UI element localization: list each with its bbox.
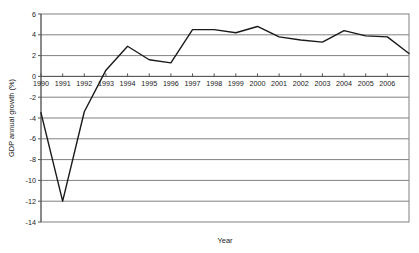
gdp-growth-line-chart: 6420-2-4-6-8-10-12-14 199019911992199319… [0, 0, 419, 253]
x-axis-tick-label: 2001 [271, 79, 287, 88]
x-axis-tick-label: 1991 [55, 79, 71, 88]
y-axis-title: GDP annual growth (%) [7, 79, 16, 157]
x-axis-tick-label: 2004 [336, 79, 352, 88]
x-axis-tick-label: 1990 [33, 79, 49, 88]
x-axis-tick-label: 2003 [314, 79, 330, 88]
y-axis-tick-label: 6 [32, 10, 36, 19]
y-axis-tick-label: 2 [32, 51, 36, 60]
x-axis-tick-label: 1995 [141, 79, 157, 88]
y-axis-tick-label: -14 [26, 218, 36, 227]
x-axis-tick-label: 1994 [120, 79, 136, 88]
x-axis-title: Year [218, 236, 233, 245]
y-axis-tick-label: -6 [30, 134, 36, 143]
x-axis-tick-label: 1998 [206, 79, 222, 88]
x-axis-tick-labels: 1990199119921993199419951996199719981999… [33, 79, 395, 88]
y-axis-tick-label: -8 [30, 155, 36, 164]
x-axis-tick-label: 1996 [163, 79, 179, 88]
y-axis-tick-label: -12 [26, 197, 36, 206]
x-axis-tick-label: 2006 [379, 79, 395, 88]
y-axis-tick-label: -4 [30, 114, 36, 123]
x-axis-tick-label: 1997 [185, 79, 201, 88]
x-axis-tick-label: 2005 [358, 79, 374, 88]
y-axis-tick-label: -10 [26, 176, 36, 185]
y-axis-tick-label: 4 [32, 30, 36, 39]
x-axis-tick-label: 2002 [293, 79, 309, 88]
x-axis-tick-label: 1999 [228, 79, 244, 88]
x-axis-tick-label: 1992 [76, 79, 92, 88]
chart-background [0, 0, 419, 253]
x-axis-tick-label: 2000 [249, 79, 265, 88]
chart-container: 6420-2-4-6-8-10-12-14 199019911992199319… [0, 0, 419, 253]
y-axis-tick-label: -2 [30, 93, 36, 102]
